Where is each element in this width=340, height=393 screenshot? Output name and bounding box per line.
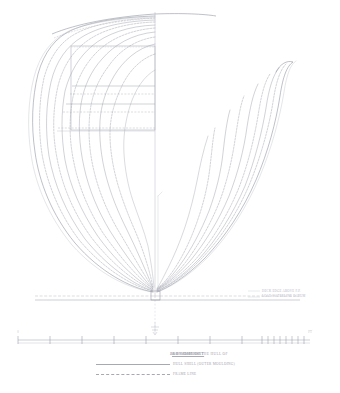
caption-suffix: AS DRAWN 1911 xyxy=(170,352,201,356)
station-fore-7 xyxy=(157,110,230,289)
station-aft-2 xyxy=(40,18,155,291)
station-fore-outer-ghost xyxy=(157,61,296,292)
scale-bar-group xyxy=(18,336,310,344)
legend-sample-solid-line xyxy=(96,364,170,365)
legend-label-frame: FRAME LINE xyxy=(173,372,196,376)
waterline-note-2: LOAD WATERLINE DATUM xyxy=(262,294,305,299)
waterline-annotations: DECK EDGE ABOVE F.P. LOAD WATERLINE DATU… xyxy=(262,289,305,300)
station-aft-8 xyxy=(89,37,155,288)
keel-group xyxy=(151,291,160,300)
legend-row-frame: FRAME LINE xyxy=(96,372,196,376)
station-aft-7 xyxy=(79,32,155,289)
station-fore-1 xyxy=(157,61,293,292)
keel-box xyxy=(151,291,160,300)
station-aft-11 xyxy=(124,70,155,287)
draft-mark-group xyxy=(151,322,159,335)
aft-body-stations xyxy=(29,16,155,292)
scale-tick-label-0: 0 xyxy=(17,330,19,334)
legend-label-shell: HULL SHELL (OUTER MOULDING) xyxy=(173,362,235,366)
station-aft-9 xyxy=(100,44,155,288)
scale-unit-label: FT xyxy=(308,330,312,334)
station-fore-2 xyxy=(157,64,286,291)
fore-body-stations xyxy=(157,61,296,292)
bulwark-box xyxy=(71,46,155,130)
station-fore-6 xyxy=(157,96,244,289)
deck-structure-group xyxy=(52,14,216,130)
caption-block: BODY PLAN OF THE HULL OF S.S. SOMERSET A… xyxy=(0,352,340,386)
legend-row-shell: HULL SHELL (OUTER MOULDING) xyxy=(96,362,235,366)
station-aft-10 xyxy=(110,54,155,287)
fore-inner-profile-top xyxy=(158,192,162,196)
legend-sample-dashed-line xyxy=(96,374,170,375)
station-aft-5 xyxy=(62,25,155,290)
baseline-group xyxy=(35,296,300,300)
drawing-sheet: DECK EDGE ABOVE F.P. LOAD WATERLINE DATU… xyxy=(0,0,340,393)
body-plan-drawing xyxy=(0,0,340,393)
station-aft-outer-ghost xyxy=(29,17,155,292)
station-fore-4 xyxy=(157,74,270,290)
station-fore-8 xyxy=(157,128,215,288)
